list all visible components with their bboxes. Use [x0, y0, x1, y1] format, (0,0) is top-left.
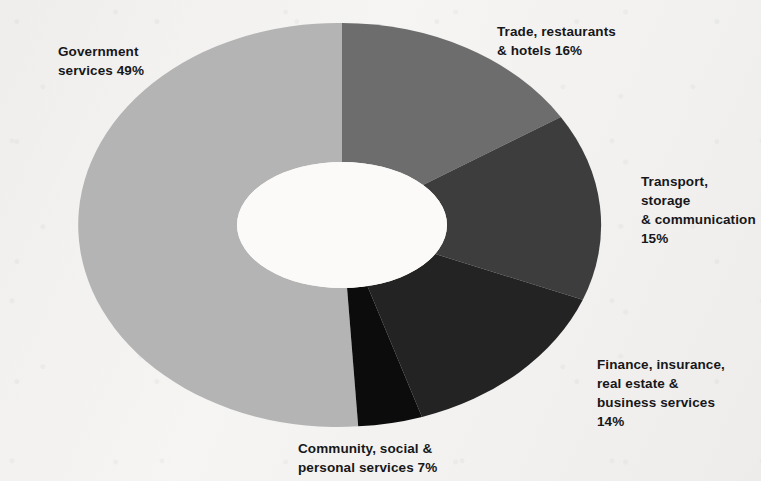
slice-label-government: Government services 49%	[58, 42, 144, 80]
chart-page: Government services 49% Trade, restauran…	[0, 0, 761, 481]
slice-label-trade: Trade, restaurants & hotels 16%	[497, 22, 616, 60]
donut-hole	[237, 162, 447, 288]
slice-label-finance: Finance, insurance, real estate & busine…	[597, 355, 725, 432]
slice-label-transport: Transport, storage & communication 15%	[641, 172, 761, 249]
slice-label-community: Community, social & personal services 7%	[298, 439, 437, 477]
